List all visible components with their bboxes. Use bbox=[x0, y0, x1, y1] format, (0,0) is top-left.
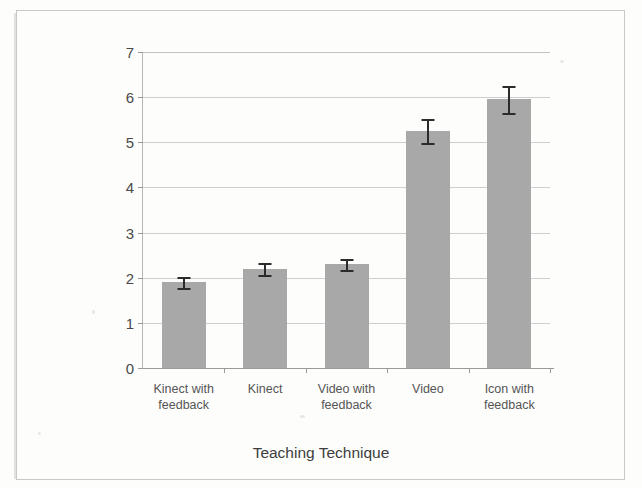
error-bar-cap bbox=[421, 143, 434, 145]
y-tick-label: 5 bbox=[126, 134, 134, 151]
y-axis-line bbox=[142, 52, 143, 369]
y-tick-mark bbox=[138, 142, 143, 143]
x-tick-mark bbox=[550, 368, 551, 373]
gridline bbox=[143, 52, 550, 53]
x-tick-mark bbox=[306, 368, 307, 373]
y-tick-label: 0 bbox=[126, 360, 134, 377]
y-tick-mark bbox=[138, 52, 143, 53]
y-tick-mark bbox=[138, 278, 143, 279]
scan-speck bbox=[92, 310, 95, 314]
x-tick-mark bbox=[224, 368, 225, 373]
error-bar bbox=[508, 86, 510, 113]
y-tick-label: 6 bbox=[126, 89, 134, 106]
bar bbox=[406, 131, 450, 368]
x-tick-mark bbox=[469, 368, 470, 373]
y-tick-label: 3 bbox=[126, 224, 134, 241]
x-tick-label: Icon with feedback bbox=[454, 381, 564, 413]
y-tick-mark bbox=[138, 97, 143, 98]
bar bbox=[325, 264, 369, 368]
bar bbox=[487, 99, 531, 368]
chart-page: Avg. Converging Gesture Count Teaching T… bbox=[0, 0, 642, 488]
error-bar-cap bbox=[421, 119, 434, 121]
gridline bbox=[143, 97, 550, 98]
y-tick-label: 7 bbox=[126, 44, 134, 61]
y-tick-label: 4 bbox=[126, 179, 134, 196]
error-bar-cap bbox=[259, 275, 272, 277]
plot-area: 01234567 bbox=[143, 52, 550, 368]
scan-speck bbox=[560, 60, 564, 63]
bar bbox=[243, 269, 287, 368]
error-bar-cap bbox=[503, 86, 516, 88]
y-tick-label: 2 bbox=[126, 269, 134, 286]
error-bar-cap bbox=[340, 259, 353, 261]
y-tick-mark bbox=[138, 323, 143, 324]
x-axis-line bbox=[143, 368, 554, 369]
y-tick-label: 1 bbox=[126, 314, 134, 331]
error-bar-cap bbox=[177, 277, 190, 279]
error-bar bbox=[427, 119, 429, 143]
y-tick-mark bbox=[138, 368, 143, 369]
x-axis-title: Teaching Technique bbox=[0, 444, 642, 462]
y-tick-mark bbox=[138, 187, 143, 188]
y-tick-mark bbox=[138, 233, 143, 234]
scan-speck bbox=[300, 415, 305, 418]
scan-speck bbox=[38, 432, 41, 435]
error-bar-cap bbox=[259, 263, 272, 265]
bar bbox=[162, 282, 206, 368]
x-tick-mark bbox=[387, 368, 388, 373]
error-bar-cap bbox=[177, 288, 190, 290]
error-bar-cap bbox=[340, 270, 353, 272]
error-bar-cap bbox=[503, 113, 516, 115]
